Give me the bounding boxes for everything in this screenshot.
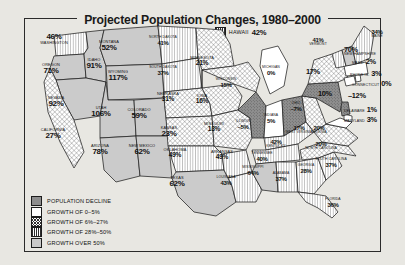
state-north-dakota — [158, 26, 198, 64]
legend-row-0-5: GROWTH OF 0–5% — [31, 206, 111, 216]
state-indiana — [264, 100, 284, 138]
state-florida — [298, 192, 338, 218]
legend-swatch-28-50-icon — [31, 227, 42, 237]
connecticut-value: 0% — [381, 80, 391, 87]
legend-label-over-50: GROWTH OVER 50% — [47, 240, 105, 246]
map-legend: POPULATION DECLINE GROWTH OF 0–5% GROWTH… — [31, 196, 111, 248]
infographic-root: Projected Population Changes, 1980–2000 … — [0, 0, 405, 265]
state-texas — [172, 170, 236, 216]
state-kansas — [166, 116, 214, 146]
state-washington — [54, 32, 88, 56]
legend-row-over-50: GROWTH OVER 50% — [31, 238, 111, 248]
state-south-dakota — [162, 58, 202, 92]
legend-label-6-27: GROWTH OF 6%–27% — [47, 219, 108, 225]
legend-label-decline: POPULATION DECLINE — [47, 198, 111, 204]
state-new-mexico — [136, 136, 172, 178]
legend-row-28-50: GROWTH OF 28%–50% — [31, 227, 111, 237]
legend-row-decline: POPULATION DECLINE — [31, 196, 111, 206]
state-montana — [100, 26, 162, 66]
legend-swatch-decline-icon — [31, 196, 42, 206]
legend-label-0-5: GROWTH OF 0–5% — [47, 209, 100, 215]
state-oklahoma — [168, 146, 224, 172]
state-maine — [352, 26, 374, 64]
state-oregon — [50, 54, 86, 80]
state-michigan — [260, 46, 288, 94]
us-map — [26, 20, 378, 220]
legend-swatch-0-5-icon — [31, 207, 42, 217]
legend-swatch-6-27-icon — [31, 217, 42, 227]
legend-label-28-50: GROWTH OF 28%–50% — [47, 229, 111, 235]
legend-row-6-27: GROWTH OF 6%–27% — [31, 217, 111, 227]
state-minnesota — [196, 28, 234, 70]
state-missouri — [212, 110, 252, 150]
state-wyoming — [106, 64, 164, 100]
legend-swatch-over-50-icon — [31, 238, 42, 248]
state-alabama — [276, 162, 298, 192]
state-colorado — [134, 98, 168, 136]
state-arizona — [100, 136, 140, 182]
state-connecticut — [344, 76, 356, 86]
